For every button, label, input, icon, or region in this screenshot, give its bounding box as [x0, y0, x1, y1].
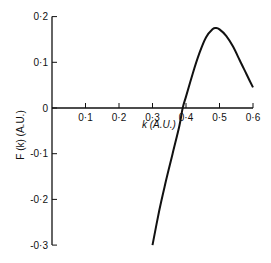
y-axis-label: F (k) (A.U.): [15, 110, 26, 159]
chart: 0·10·20·30·40·50·60·20·10-0·1-0·2-0·3 k …: [0, 0, 271, 263]
y-tick-label: -0·3: [30, 240, 48, 251]
y-tick-label: -0·2: [30, 194, 48, 205]
tick-labels: 0·10·20·30·40·50·60·20·10-0·1-0·2-0·3: [30, 11, 260, 251]
y-tick-label: 0·1: [34, 57, 49, 68]
data-curve: [153, 28, 254, 245]
x-tick-label: 0·2: [112, 112, 127, 123]
y-tick-label: -0·1: [30, 148, 48, 159]
x-tick-label: 0·6: [246, 112, 261, 123]
ticks: [52, 17, 253, 246]
x-tick-label: 0·1: [78, 112, 93, 123]
y-tick-label: 0·2: [34, 11, 49, 22]
x-tick-label: 0·5: [212, 112, 227, 123]
y-tick-label: 0: [42, 103, 48, 114]
x-axis-label: k (A.U.): [142, 119, 176, 130]
axes: [52, 17, 253, 246]
